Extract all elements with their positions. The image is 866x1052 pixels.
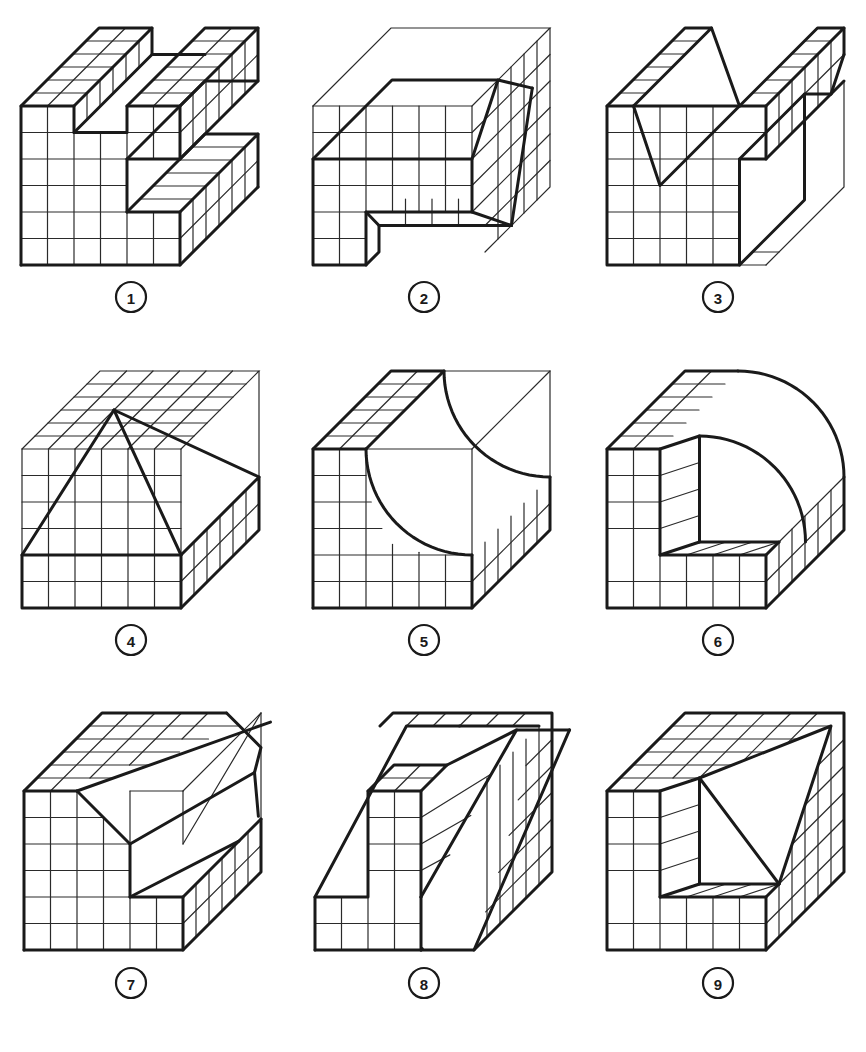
outline-edge xyxy=(472,212,512,226)
outline-edge xyxy=(607,713,844,950)
outline-edge xyxy=(313,477,550,608)
figure-2 xyxy=(313,28,550,265)
grid-line xyxy=(660,805,700,818)
figure-label-1: 1 xyxy=(116,282,146,312)
grid-line xyxy=(509,793,552,836)
grid-line xyxy=(407,713,420,726)
label-number: 3 xyxy=(714,290,722,307)
figures-canvas: 123456789 xyxy=(0,0,866,1052)
outline-edge xyxy=(660,778,779,884)
label-number: 8 xyxy=(420,976,428,993)
grid-line xyxy=(673,713,738,778)
outline-edge xyxy=(700,436,806,542)
grid-line xyxy=(499,819,552,872)
grid-line xyxy=(513,713,526,726)
grid-line xyxy=(660,489,700,502)
grid-line xyxy=(421,815,471,844)
figure-label-7: 7 xyxy=(116,968,146,998)
figure-1 xyxy=(21,28,258,265)
grid-line xyxy=(486,713,499,726)
outline-edge xyxy=(660,436,779,542)
grid-line xyxy=(660,516,700,529)
outline-edge xyxy=(421,730,517,897)
figure-label-2: 2 xyxy=(409,282,439,312)
grid-line xyxy=(472,371,550,449)
figure-4 xyxy=(22,371,259,608)
outline-edge xyxy=(366,449,472,555)
outline-edge xyxy=(498,80,532,88)
figure-label-3: 3 xyxy=(703,282,733,312)
figure-layer xyxy=(21,28,844,950)
label-number: 2 xyxy=(420,290,428,307)
grid-line xyxy=(700,713,765,778)
outline-edge xyxy=(740,94,805,265)
outline-edge xyxy=(474,730,570,950)
label-number: 6 xyxy=(714,633,722,650)
label-number: 7 xyxy=(127,976,135,993)
figure-3 xyxy=(607,28,844,265)
grid-line xyxy=(660,463,700,476)
outline-edge xyxy=(313,80,498,159)
grid-line xyxy=(660,858,700,871)
label-number: 5 xyxy=(420,633,428,650)
label-number: 4 xyxy=(127,633,136,650)
figure-label-6: 6 xyxy=(703,625,733,655)
figure-9 xyxy=(607,713,844,950)
outline-edge xyxy=(22,410,114,555)
figure-7 xyxy=(24,713,270,950)
figure-label-4: 4 xyxy=(116,625,146,655)
figure-6 xyxy=(607,371,844,608)
outline-edge xyxy=(315,726,460,897)
grid-line xyxy=(313,28,550,106)
outline-edge xyxy=(740,94,832,159)
grid-line xyxy=(743,713,791,761)
figure-5 xyxy=(313,371,550,608)
outline-edge xyxy=(255,773,259,817)
outline-edge xyxy=(700,778,780,884)
outline-edge xyxy=(366,226,379,266)
grid-line xyxy=(660,831,700,844)
label-number: 1 xyxy=(127,290,135,307)
grid-line xyxy=(460,713,473,726)
outline-edge xyxy=(24,819,261,950)
label-number: 9 xyxy=(714,976,722,993)
figure-label-8: 8 xyxy=(409,968,439,998)
figure-label-5: 5 xyxy=(409,625,439,655)
figure-8 xyxy=(315,713,570,950)
grid-line xyxy=(433,713,446,726)
outline-edge xyxy=(421,949,422,950)
outline-edge xyxy=(738,371,844,477)
grid-line xyxy=(421,855,450,871)
outline-edge xyxy=(114,410,259,477)
outline-edge xyxy=(130,773,255,845)
figure-label-9: 9 xyxy=(703,968,733,998)
outline-edge xyxy=(712,28,740,106)
